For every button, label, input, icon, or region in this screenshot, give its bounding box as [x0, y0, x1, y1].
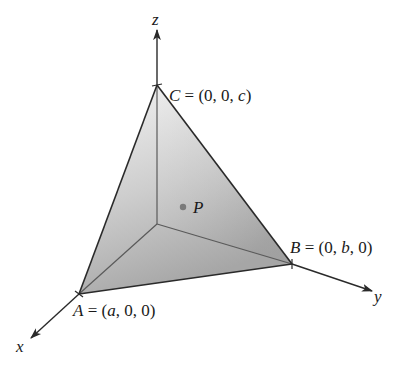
vertex-a-name: A — [72, 301, 84, 320]
vertex-b-label: B = (0, b, 0) — [290, 238, 372, 257]
vertex-c-name: C — [169, 86, 181, 105]
vertex-a-label: A = (a, 0, 0) — [72, 301, 155, 320]
vertex-a-eq: = ( — [83, 301, 107, 320]
point-p-label: P — [192, 198, 203, 217]
x-axis-label: x — [15, 337, 24, 356]
vertex-b-coord: b — [341, 238, 350, 257]
vertex-a-coord: a — [107, 301, 116, 320]
point-p — [180, 204, 186, 210]
x-axis — [31, 294, 79, 338]
vertex-b-close: , 0) — [350, 238, 373, 257]
vertex-c-label: C = (0, 0, c) — [169, 86, 251, 105]
vertex-b-name: B — [290, 238, 301, 257]
vertex-b-eq: = (0, — [300, 238, 341, 257]
vertex-c-eq: = (0, 0, — [180, 86, 238, 105]
tetrahedron-diagram: P z y x C = (0, 0, c) B = (0, b, 0) A = … — [0, 0, 404, 369]
vertex-a-close: , 0, 0) — [116, 301, 156, 320]
z-axis-label: z — [151, 10, 159, 29]
y-axis-label: y — [372, 287, 382, 306]
y-axis — [292, 264, 372, 291]
vertex-c-close: ) — [246, 86, 252, 105]
